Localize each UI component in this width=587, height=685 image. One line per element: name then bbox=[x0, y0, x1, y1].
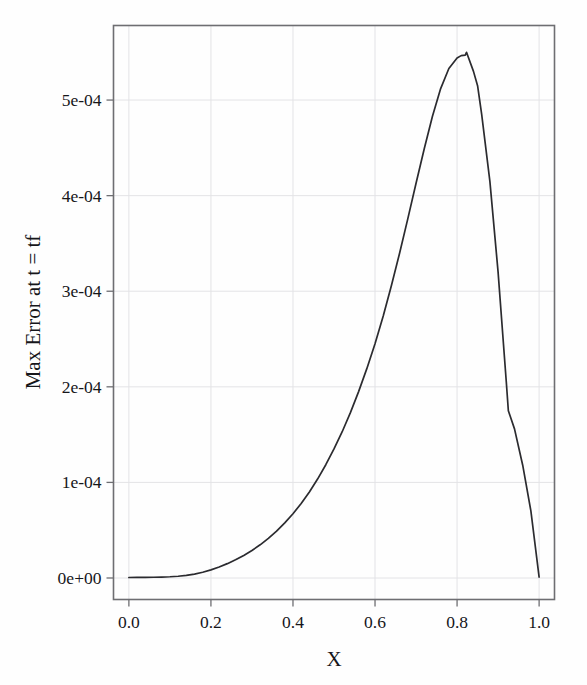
y-tick-label: 3e-04 bbox=[62, 281, 102, 301]
y-axis-title: Max Error at t = tf bbox=[21, 235, 45, 390]
y-tick-label: 4e-04 bbox=[62, 186, 102, 206]
x-axis-title: X bbox=[326, 647, 341, 671]
y-tick-label: 1e-04 bbox=[62, 472, 102, 492]
chart-figure: 0e+001e-042e-043e-044e-045e-04 0.00.20.4… bbox=[0, 0, 587, 685]
y-tick-label: 5e-04 bbox=[62, 90, 102, 110]
y-tick-label: 2e-04 bbox=[62, 377, 102, 397]
x-tick-label: 1.0 bbox=[528, 612, 550, 632]
x-tick-label: 0.4 bbox=[282, 612, 304, 632]
x-tick-label: 0.6 bbox=[364, 612, 386, 632]
line-chart: 0e+001e-042e-043e-044e-045e-04 0.00.20.4… bbox=[0, 0, 587, 685]
x-tick-label: 0.2 bbox=[200, 612, 222, 632]
x-tick-label: 0.8 bbox=[446, 612, 468, 632]
y-tick-label: 0e+00 bbox=[58, 568, 102, 588]
x-tick-label: 0.0 bbox=[118, 612, 140, 632]
